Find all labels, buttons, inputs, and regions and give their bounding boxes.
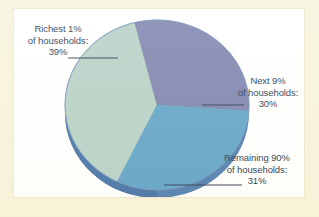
pie-label-next-value: 30%	[228, 98, 308, 110]
figure-frame: Richest 1% of households: 39% Next 9% of…	[0, 0, 319, 217]
pie-label-next-line2: of households:	[228, 87, 308, 99]
pie-label-next: Next 9% of households: 30%	[228, 75, 308, 110]
pie-label-remaining-line2: of households:	[205, 164, 309, 176]
pie-label-richest-value: 39%	[16, 46, 100, 58]
pie-label-remaining-line1: Remaining 90%	[205, 152, 309, 164]
pie-label-richest: Richest 1% of households: 39%	[16, 23, 100, 58]
pie-label-remaining-value: 31%	[205, 175, 309, 187]
pie-label-next-line1: Next 9%	[228, 75, 308, 87]
pie-label-richest-line1: Richest 1%	[16, 23, 100, 35]
pie-label-richest-line2: of households:	[16, 35, 100, 47]
pie-label-remaining: Remaining 90% of households: 31%	[205, 152, 309, 187]
